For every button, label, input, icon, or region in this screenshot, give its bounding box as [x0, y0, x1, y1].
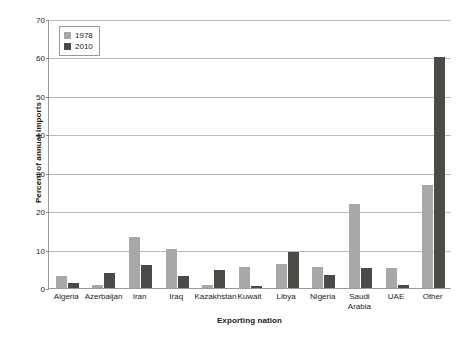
y-tick-mark	[46, 289, 49, 290]
x-tick-label: Kazakhstan	[195, 292, 232, 302]
bar-group	[415, 20, 452, 288]
bar-group	[159, 20, 196, 288]
y-tick-label: 70	[36, 16, 45, 25]
bar-group	[305, 20, 342, 288]
y-axis-title: Percent of annual imports	[34, 53, 43, 253]
bar	[361, 268, 372, 288]
x-tick-label: UAE	[378, 292, 415, 302]
bar	[178, 276, 189, 288]
bar	[434, 57, 445, 288]
bar	[104, 273, 115, 288]
bar	[251, 286, 262, 288]
bar	[129, 237, 140, 288]
legend-swatch-icon	[64, 32, 71, 39]
bar-group	[196, 20, 233, 288]
legend-label: 1978	[75, 31, 93, 40]
x-tick-label: Saudi Arabia	[341, 292, 378, 311]
bar-group	[232, 20, 269, 288]
bar	[386, 268, 397, 288]
bar	[288, 252, 299, 288]
bar	[312, 267, 323, 288]
x-tick-label: Azerbaijan	[85, 292, 122, 302]
x-axis-title: Exporting nation	[48, 316, 451, 325]
bar	[202, 285, 213, 288]
legend-label: 2010	[75, 42, 93, 51]
bar-group	[269, 20, 306, 288]
bar-group	[122, 20, 159, 288]
bar	[398, 285, 409, 288]
x-tick-label: Iran	[121, 292, 158, 302]
bar-group	[342, 20, 379, 288]
bar	[422, 185, 433, 288]
bar	[276, 264, 287, 288]
plot-area: 010203040506070	[48, 20, 451, 289]
bar-group	[49, 20, 86, 288]
x-tick-label: Algeria	[48, 292, 85, 302]
y-tick-label: 0	[41, 285, 45, 294]
legend-item: 2010	[64, 41, 93, 52]
bars-layer	[49, 20, 451, 288]
x-tick-label: Nigeria	[304, 292, 341, 302]
legend-item: 1978	[64, 30, 93, 41]
x-tick-label: Other	[414, 292, 451, 302]
bar-group	[86, 20, 123, 288]
bar-chart: Percent of annual imports 01020304050607…	[0, 0, 465, 347]
bar	[166, 249, 177, 288]
bar-group	[379, 20, 416, 288]
y-tick-label: 30	[36, 169, 45, 178]
bar	[214, 270, 225, 288]
x-tick-label: Iraq	[158, 292, 195, 302]
chart-legend: 19782010	[59, 26, 100, 56]
bar	[349, 204, 360, 288]
y-tick-label: 40	[36, 131, 45, 140]
y-tick-label: 50	[36, 92, 45, 101]
y-tick-label: 60	[36, 54, 45, 63]
y-tick-label: 10	[36, 246, 45, 255]
x-tick-label: Libya	[268, 292, 305, 302]
bar	[239, 267, 250, 288]
y-tick-label: 20	[36, 208, 45, 217]
bar	[92, 285, 103, 288]
legend-swatch-icon	[64, 43, 71, 50]
bar	[68, 283, 79, 288]
bar	[324, 275, 335, 288]
bar	[56, 276, 67, 288]
bar	[141, 265, 152, 288]
x-tick-label: Kuwait	[231, 292, 268, 302]
